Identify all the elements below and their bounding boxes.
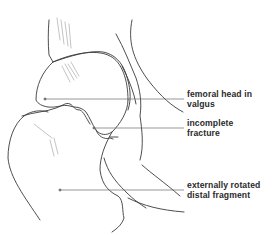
label-incomplete-fracture-line2: fracture: [187, 129, 233, 139]
hatch-3: [65, 22, 68, 46]
hatch-8: [71, 62, 79, 76]
shaft-lateral-edge: [104, 158, 146, 208]
hatch-1: [57, 18, 60, 40]
label-femoral-head: femoral head in valgus: [187, 90, 252, 109]
pelvic-curve-inner: [116, 34, 142, 160]
hatch-2: [61, 20, 64, 44]
ischium-line-1: [142, 165, 180, 196]
leader-dot-distal-fragment: [59, 189, 61, 191]
hatch-9: [34, 124, 52, 138]
hatch-11: [54, 138, 58, 154]
hatch-4: [69, 24, 71, 48]
hatch-7: [68, 64, 77, 78]
hatch-5: [62, 66, 70, 82]
distal-fragment-outline: [8, 111, 48, 220]
label-femoral-head-line2: valgus: [187, 100, 252, 110]
label-distal-fragment-line2: distal fragment: [187, 191, 260, 201]
acetabulum-outline: [48, 20, 130, 110]
pelvic-curve-outer: [131, 20, 183, 112]
diagram-canvas: femoral head in valgus incomplete fractu…: [0, 0, 274, 235]
hatch-10: [50, 140, 54, 156]
shaft-medial-edge: [100, 132, 124, 232]
leader-dot-incomplete-fracture: [93, 127, 95, 129]
label-incomplete-fracture: incomplete fracture: [187, 119, 233, 138]
acetabulum-inner-rim: [53, 52, 128, 100]
leader-dot-femoral-head: [44, 98, 46, 100]
ischium-line-2: [128, 198, 184, 212]
label-distal-fragment: externally rotated distal fragment: [187, 181, 260, 200]
femoral-head-outline: [36, 62, 128, 134]
